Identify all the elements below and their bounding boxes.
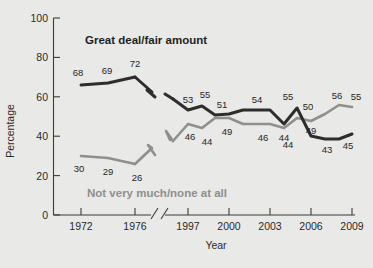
x-axis-break-left	[151, 208, 158, 219]
dark-point-label-1972: 68	[73, 67, 84, 78]
light-point-label-1999: 49	[222, 126, 233, 137]
x-tick-label-2003: 2003	[258, 220, 282, 232]
dark-point-label-1999: 51	[217, 99, 228, 110]
light-point-label-2005: 50	[303, 101, 314, 112]
dark-point-label-1998: 55	[200, 89, 211, 100]
dark-series-line-left	[81, 77, 135, 85]
y-axis-title: Percentage	[4, 104, 16, 158]
y-tick-label-100: 100	[30, 12, 48, 24]
light-series-break-left	[135, 145, 155, 164]
y-tick-label-60: 60	[36, 91, 48, 103]
y-tick-label-40: 40	[36, 130, 48, 142]
dark-series-break-left	[135, 77, 155, 97]
dark-series-annotation: Great deal/fair amount	[85, 34, 207, 46]
light-point-label-2008: 56	[332, 90, 343, 101]
dark-point-label-1974: 69	[102, 65, 113, 76]
x-axis-title: Year	[205, 239, 227, 251]
dark-point-label-2004: 55	[283, 91, 294, 102]
dark-point-label-1976: 72	[130, 58, 141, 69]
light-point-label-1972: 30	[74, 163, 85, 174]
light-point-label-1997: 46	[185, 131, 196, 142]
light-point-label-1974: 29	[103, 166, 114, 177]
x-axis-break-right	[161, 208, 168, 219]
dark-point-label-1997: 53	[183, 94, 194, 105]
x-tick-label-1997: 1997	[176, 220, 200, 232]
light-point-label-2002: 46	[258, 132, 269, 143]
light-point-label-2006: 49	[306, 125, 317, 136]
y-tick-label-0: 0	[42, 209, 48, 221]
x-tick-label-2006: 2006	[299, 220, 323, 232]
light-series-break-right	[166, 131, 173, 141]
dark-point-label-2007: 43	[322, 144, 333, 155]
x-tick-label-2009: 2009	[340, 220, 364, 232]
dark-point-label-2009: 45	[343, 140, 354, 151]
x-tick-label-1972: 1972	[69, 220, 93, 232]
light-point-label-1998: 44	[202, 136, 213, 147]
dark-point-label-2001: 54	[252, 94, 263, 105]
light-point-label-1976: 26	[132, 172, 143, 183]
x-tick-label-1976: 1976	[123, 220, 147, 232]
light-series-line-left	[81, 156, 135, 164]
y-tick-label-80: 80	[36, 51, 48, 63]
y-tick-label-20: 20	[36, 170, 48, 182]
light-point-label-2004: 44	[283, 139, 294, 150]
line-chart: 100 80 60 40 20 0 Percentage 1972 1976 1…	[0, 0, 373, 268]
x-tick-label-2000: 2000	[217, 220, 241, 232]
light-point-label-2009: 55	[351, 91, 362, 102]
light-series-annotation: Not very much/none at all	[87, 187, 227, 199]
chart-container: 100 80 60 40 20 0 Percentage 1972 1976 1…	[0, 0, 373, 268]
